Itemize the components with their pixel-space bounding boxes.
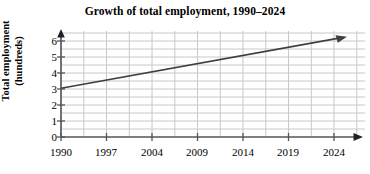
x-axis — [61, 133, 363, 141]
y-axis-title-line-2: (hundreds) — [13, 6, 26, 116]
chart-title: Growth of total employment, 1990–2024 — [0, 5, 370, 17]
y-axis-title: Total employment (hundreds) — [0, 6, 28, 116]
chart-plot-svg — [55, 28, 365, 148]
y-axis-title-line-1: Total employment — [0, 6, 13, 116]
y-axis — [57, 29, 65, 137]
trend-line-series — [61, 35, 347, 88]
chart-figure: Growth of total employment, 1990–2024 To… — [0, 0, 370, 174]
